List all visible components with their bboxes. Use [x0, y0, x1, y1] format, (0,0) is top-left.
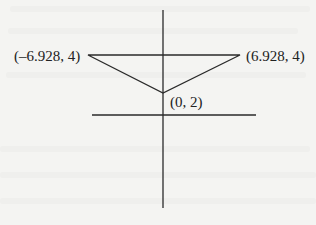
- bottom-vertex-label: (0, 2): [170, 95, 203, 110]
- left-vertex-label: (–6.928, 4): [14, 49, 80, 64]
- diagram-canvas: (–6.928, 4) (6.928, 4) (0, 2): [0, 0, 316, 225]
- inverted-triangle: [88, 55, 240, 93]
- diagram-svg: [0, 0, 316, 225]
- right-vertex-label: (6.928, 4): [246, 49, 305, 64]
